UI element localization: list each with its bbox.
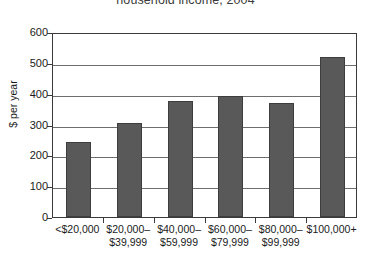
gridline [53,188,356,189]
y-axis-tick-label: 100 [8,181,48,192]
gridline [53,157,356,158]
gridline [53,96,356,97]
x-axis-tick-label: $20,000– $39,999 [100,223,157,248]
gridline [53,65,356,66]
bar [66,142,91,217]
x-axis-tick-label: $40,000– $59,999 [151,223,208,248]
y-axis-tick-label: 0 [8,212,48,223]
y-axis-tick-label: 200 [8,150,48,161]
x-axis-tick-label: $100,000+ [303,223,360,236]
chart-title: household income, 2004 [0,0,371,7]
y-axis-tick-label: 600 [8,27,48,38]
y-axis-tick-label: 300 [8,120,48,131]
bar [269,103,294,217]
y-axis-tick-mark [47,218,52,219]
y-axis-tick-label: 500 [8,58,48,69]
x-axis-tick-label: $60,000– $79,999 [202,223,259,248]
bar [168,101,193,217]
y-axis-tick-label: 400 [8,89,48,100]
bar [320,57,345,217]
bar-chart-figure: household income, 2004 $ per year 600500… [0,0,371,258]
y-axis-title: $ per year [7,59,19,149]
plot-area [52,33,357,218]
x-axis-tick-label: <$20,000 [49,223,106,236]
gridline [53,127,356,128]
x-axis-tick-label: $80,000– $99,999 [252,223,309,248]
bar [117,123,142,217]
bar [218,96,243,217]
